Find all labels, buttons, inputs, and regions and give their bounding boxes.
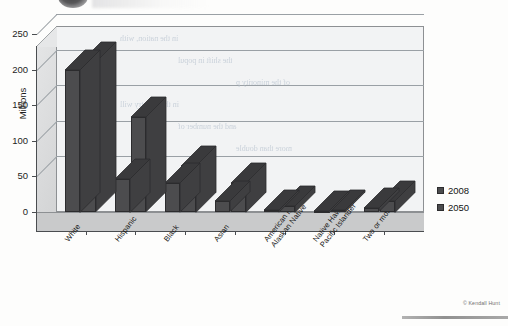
legend-item-2008: 2008	[437, 186, 469, 196]
x-axis-tick	[384, 231, 385, 235]
x-axis-tick	[185, 231, 186, 235]
bar-side-face	[379, 188, 400, 213]
y-axis-title: Millions	[17, 69, 28, 139]
y-axis-line	[36, 46, 37, 232]
bar-side-face	[279, 190, 300, 213]
legend-label: 2050	[448, 203, 469, 213]
y-axis-tick-label-0: 0	[2, 206, 28, 217]
gridline-250	[56, 14, 424, 15]
x-axis-tick	[135, 231, 136, 235]
bar-side-face	[80, 50, 101, 213]
legend-item-2050: 2050	[437, 203, 469, 213]
copyright-credit: © Kendall Hunt	[463, 300, 500, 306]
bar-2008-white	[65, 50, 80, 212]
y-axis-tick-label-250: 250	[2, 28, 28, 39]
plot-left-wall	[36, 46, 56, 212]
bar-side-face	[329, 191, 350, 214]
bar-side-face	[180, 163, 201, 213]
y-axis-tick-label-50: 50	[2, 170, 28, 181]
bar-side-face	[230, 181, 251, 213]
bar-chart: in the nation, withthe shift in populof …	[0, 0, 508, 326]
x-axis-tick	[86, 231, 87, 235]
legend-label: 2008	[448, 186, 469, 196]
page-footer-rule	[402, 316, 508, 319]
x-axis-tick	[235, 231, 236, 235]
chart-legend: 20082050	[437, 186, 469, 219]
bar-side-face	[130, 159, 151, 213]
legend-swatch-icon	[437, 187, 444, 194]
plot-corner-wedge	[36, 26, 57, 47]
bar-front-face	[65, 70, 80, 212]
legend-swatch-icon	[437, 204, 444, 211]
